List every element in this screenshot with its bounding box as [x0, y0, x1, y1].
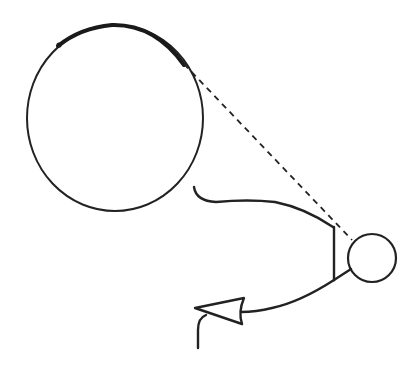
arc-start-dot [56, 42, 61, 47]
diagram-svg [0, 0, 414, 370]
diagram-canvas [0, 0, 414, 370]
